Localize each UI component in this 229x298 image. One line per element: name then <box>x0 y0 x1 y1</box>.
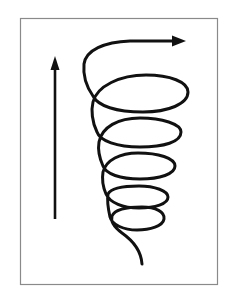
diagram-figure: upward-arrow expanding-helix <box>0 0 229 298</box>
background <box>0 0 229 298</box>
diagram-canvas <box>0 0 229 298</box>
